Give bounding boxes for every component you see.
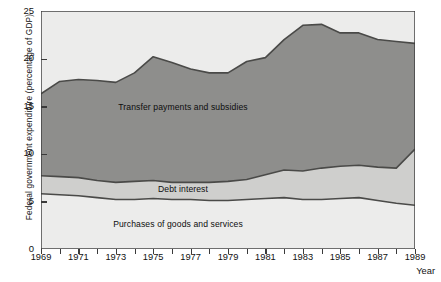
x-tick-label: 1969 <box>21 252 61 262</box>
band-label-debt-interest: Debt interest <box>158 184 208 194</box>
x-tick-label: 1977 <box>171 252 211 262</box>
y-tick-mark <box>41 106 47 107</box>
y-tick-label: 15 <box>8 100 34 111</box>
chart-figure: Federal government expenditure (percenta… <box>0 0 441 282</box>
x-tick-label: 1971 <box>58 252 98 262</box>
y-tick-label: 20 <box>8 52 34 63</box>
x-tick-label: 1973 <box>96 252 136 262</box>
x-tick-label: 1987 <box>358 252 398 262</box>
plot-area <box>41 11 415 249</box>
band-label-purchases: Purchases of goods and services <box>113 219 243 229</box>
y-tick-label: 25 <box>8 5 34 16</box>
x-tick-label: 1983 <box>283 252 323 262</box>
y-tick-mark <box>41 201 47 202</box>
band-label-transfer-payments: Transfer payments and subsidies <box>118 102 247 112</box>
x-tick-label: 1985 <box>320 252 360 262</box>
x-tick-label: 1979 <box>208 252 248 262</box>
y-tick-mark <box>41 59 47 60</box>
x-axis-title: Year <box>416 266 435 276</box>
stacked-area-plot <box>41 11 415 249</box>
y-tick-label: 5 <box>8 195 34 206</box>
x-tick-label: 1989 <box>395 252 435 262</box>
y-tick-label: 10 <box>8 147 34 158</box>
x-tick-label: 1981 <box>245 252 285 262</box>
x-tick-label: 1975 <box>133 252 173 262</box>
y-tick-mark <box>41 154 47 155</box>
